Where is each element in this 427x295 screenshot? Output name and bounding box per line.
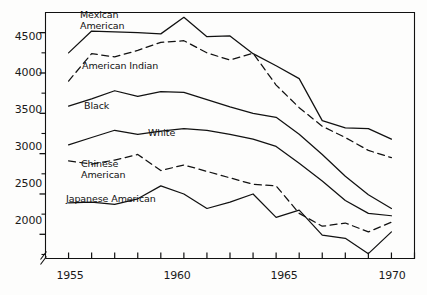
line-chart: 4500 4000 3500 3000 2500 2000 1955 1960 … [0,0,427,295]
series-label-mexican-american: Mexican American [80,10,124,31]
y-tick-label-4000: 4000 [2,67,42,78]
series-label-chinese-american: Chinese American [81,159,125,180]
x-tick-label-1960: 1960 [155,270,199,281]
x-tick-label-1965: 1965 [262,270,306,281]
x-tick-label-1970: 1970 [370,270,414,281]
series-label-japanese-american: Japanese American [66,194,156,205]
series-label-black: Black [84,101,109,112]
series-line-mexican-american [69,17,392,139]
chart-series-lines [69,17,392,253]
chart-plot-area [0,0,427,295]
y-tick-label-3500: 3500 [2,104,42,115]
y-tick-label-4500: 4500 [2,31,42,42]
y-tick-label-2500: 2500 [2,178,42,189]
chart-axes [40,13,415,265]
series-line-black [69,91,392,209]
y-axis-break-icon [41,252,47,265]
series-label-american-indian: American Indian [82,61,158,72]
series-line-american-indian [69,41,392,158]
x-tick-label-1955: 1955 [48,270,92,281]
plot-frame [46,13,415,259]
y-tick-label-2000: 2000 [2,215,42,226]
y-tick-label-3000: 3000 [2,141,42,152]
series-label-white: White [148,128,175,139]
